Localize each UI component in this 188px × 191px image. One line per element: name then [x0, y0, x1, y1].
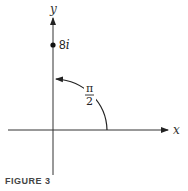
angle-arc — [56, 79, 107, 130]
angle-numerator: π — [86, 82, 93, 95]
point-8i-dot — [50, 42, 55, 47]
figure-caption: FIGURE 3 — [5, 176, 51, 186]
point-8i-label: 8i — [59, 38, 70, 52]
angle-denominator: 2 — [86, 95, 93, 108]
y-axis-label: y — [49, 2, 57, 16]
x-axis-label: x — [173, 123, 180, 137]
complex-plane-diagram: y x 8i π 2 — [0, 0, 188, 191]
